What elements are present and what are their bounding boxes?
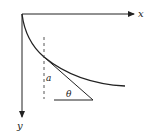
angle-a-label: a (46, 73, 51, 83)
y-axis-label: y (16, 120, 23, 131)
angle-theta-label: θ (66, 89, 72, 99)
x-axis-label: x (138, 8, 144, 19)
curve (22, 14, 125, 86)
curve-tangent-diagram: x y a θ (0, 0, 147, 140)
